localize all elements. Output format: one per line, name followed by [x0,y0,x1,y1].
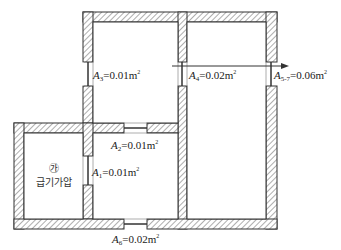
wall-horizontal-middle [14,123,178,133]
room-name: 급기가압 [28,176,80,190]
label-a3: A3=0.01m2 [93,69,140,83]
room-right [187,22,266,219]
wall-right [266,12,277,229]
wall-left-annex [14,123,24,229]
room-pressurized-label: ㉮ 급기가압 [28,162,80,189]
label-a4: A4=0.02m2 [189,69,236,83]
label-a2: A2=0.01m2 [111,139,158,153]
label-a6: A6=0.02m2 [112,233,159,247]
wall-middle [178,12,187,229]
label-a1: A1=0.01m2 [92,166,139,180]
label-a5-7: A5-7=0.06m2 [274,69,327,83]
room-marker: ㉮ [28,162,80,176]
floor-plan [0,0,341,250]
